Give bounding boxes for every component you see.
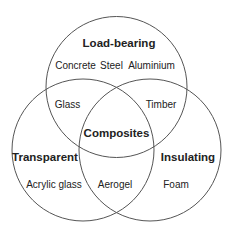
circle-transparent bbox=[12, 79, 154, 221]
item-acrylic-glass: Acrylic glass bbox=[26, 179, 82, 190]
set-label-load-bearing: Load-bearing bbox=[83, 37, 156, 49]
item-concrete: Concrete bbox=[55, 60, 96, 71]
set-label-transparent: Transparent bbox=[12, 151, 78, 163]
set-label-insulating: Insulating bbox=[161, 151, 215, 163]
item-glass: Glass bbox=[55, 99, 81, 110]
venn-diagram: Load-bearing Transparent Insulating Conc… bbox=[0, 0, 232, 232]
item-aerogel: Aerogel bbox=[98, 179, 132, 190]
item-aluminium: Aluminium bbox=[128, 60, 175, 71]
item-foam: Foam bbox=[163, 179, 189, 190]
item-steel: Steel bbox=[100, 60, 123, 71]
center-label-composites: Composites bbox=[84, 127, 150, 139]
item-timber: Timber bbox=[146, 99, 177, 110]
